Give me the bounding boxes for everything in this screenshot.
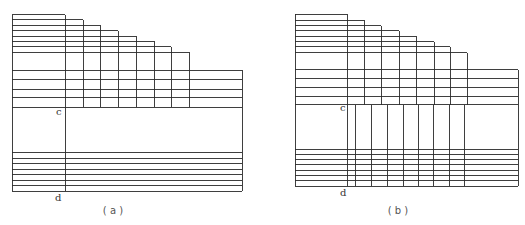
panel-a xyxy=(12,15,242,192)
panel-b xyxy=(295,14,518,186)
caption-a: ( a ) xyxy=(103,205,123,216)
caption-b: ( b ) xyxy=(388,205,409,216)
label-d: d xyxy=(55,192,62,203)
label-d: d xyxy=(340,187,347,198)
label-c: c xyxy=(56,106,62,117)
diagram-canvas: c d ( a ) c d ( b ) xyxy=(0,0,525,225)
label-c: c xyxy=(340,102,346,113)
